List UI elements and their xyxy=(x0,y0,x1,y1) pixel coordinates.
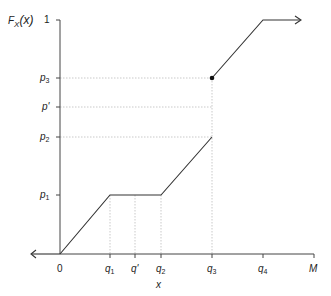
upper-branch xyxy=(212,20,300,78)
y-tick-p3: p3 xyxy=(39,72,50,84)
y-tick-pprime: p' xyxy=(41,101,51,112)
y-axis-title: FX(x) xyxy=(8,13,33,29)
lower-branch xyxy=(60,137,212,254)
x-tick-0: 0 xyxy=(57,263,63,274)
x-axis-title: x xyxy=(155,279,162,290)
cdf-chart: FX(x) 1 p3 p' p2 p1 0 q1 q' q2 q3 q4 M x xyxy=(0,0,331,296)
jump-dot xyxy=(210,76,215,81)
x-tick-q2: q2 xyxy=(156,263,166,275)
y-tick-p2: p2 xyxy=(39,131,50,143)
y-tick-1: 1 xyxy=(44,14,50,25)
x-tick-q1: q1 xyxy=(105,263,115,275)
x-tick-q3: q3 xyxy=(207,263,217,275)
y-tick-p1: p1 xyxy=(39,189,50,201)
axes xyxy=(56,20,314,258)
x-tick-q4: q4 xyxy=(258,263,268,275)
x-tick-M: M xyxy=(309,263,318,274)
x-tick-qprime: q' xyxy=(131,263,140,274)
